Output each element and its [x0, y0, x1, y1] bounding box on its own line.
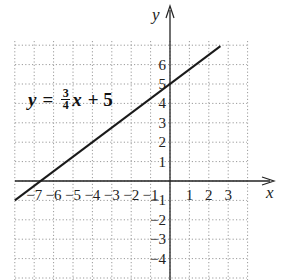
y-tick-label: −3: [150, 231, 166, 247]
y-tick-label: 3: [159, 115, 167, 131]
x-tick-label: −2: [123, 187, 139, 203]
x-tick-label: −6: [46, 187, 62, 203]
slope-fraction: 3 4: [61, 88, 70, 111]
y-tick-label: −4: [150, 251, 166, 267]
equation-equals: =: [42, 89, 53, 111]
equation-label: y = 3 4 x + 5: [28, 88, 113, 111]
x-tick-label: 1: [186, 187, 194, 203]
grid-lines: [15, 41, 248, 280]
equation-variable: x: [72, 89, 82, 111]
x-tick-label: −3: [104, 187, 120, 203]
x-tick-label: 3: [224, 187, 232, 203]
y-tick-label: 4: [159, 95, 167, 111]
x-axis-label: x: [265, 183, 274, 202]
coordinate-plane: −7−6−5−4−3−2−1123654321−1−2−3−4 x y: [0, 0, 285, 280]
y-tick-label: −2: [150, 212, 166, 228]
y-axis-label: y: [150, 5, 160, 24]
y-tick-label: −1: [150, 192, 166, 208]
x-tick-label: −4: [84, 187, 100, 203]
graph-figure: −7−6−5−4−3−2−1123654321−1−2−3−4 x y y = …: [0, 0, 285, 280]
x-tick-label: −5: [65, 187, 81, 203]
y-tick-label: 2: [159, 134, 167, 150]
slope-denominator: 4: [63, 100, 69, 111]
x-tick-label: 2: [205, 187, 213, 203]
equation-constant: + 5: [88, 89, 113, 111]
equation-lhs: y: [28, 89, 36, 111]
y-tick-label: 6: [159, 57, 167, 73]
y-tick-label: 1: [159, 154, 167, 170]
